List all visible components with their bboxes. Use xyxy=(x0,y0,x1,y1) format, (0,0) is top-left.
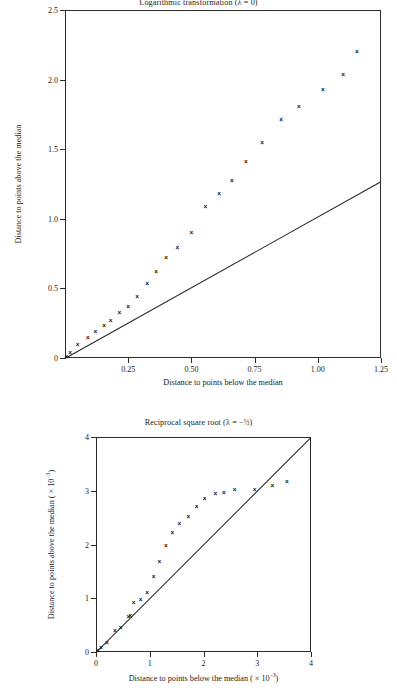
data-point xyxy=(163,543,168,548)
data-point xyxy=(135,294,140,299)
data-point xyxy=(354,49,359,54)
x-axis-title: Distance to points below the median xyxy=(65,378,381,387)
data-point xyxy=(126,304,131,309)
figure-title: Reciprocal square root (λ = −½) xyxy=(0,418,397,427)
x-tick xyxy=(381,358,382,363)
data-point xyxy=(104,640,109,645)
data-point xyxy=(320,87,325,92)
data-point xyxy=(186,514,191,519)
data-point xyxy=(118,625,123,630)
x-tick-label: 0.25 xyxy=(121,365,135,374)
data-point xyxy=(229,178,234,183)
y-axis-title: Distance to points above the median ( × … xyxy=(45,437,56,652)
x-tick-label: 2 xyxy=(202,659,206,668)
data-point xyxy=(138,597,143,602)
data-point xyxy=(93,329,98,334)
data-point xyxy=(164,255,169,260)
data-point xyxy=(151,574,156,579)
y-tick xyxy=(60,10,65,11)
y-tick-label: 2.0 xyxy=(33,75,58,84)
y-tick-label: 2.5 xyxy=(33,6,58,15)
x-tick-label: 4 xyxy=(309,659,313,668)
x-tick-label: 0.75 xyxy=(248,365,262,374)
y-tick xyxy=(91,598,96,599)
x-tick-label: 0.50 xyxy=(184,365,198,374)
data-point xyxy=(252,487,257,492)
x-tick-label: 3 xyxy=(255,659,259,668)
data-point xyxy=(68,350,73,355)
data-point xyxy=(284,479,289,484)
x-tick-label: 1.25 xyxy=(374,365,388,374)
data-point xyxy=(341,72,346,77)
scanned-page: Logarithmic transformation (λ = 0) 0.250… xyxy=(0,0,397,692)
y-axis-title: Distance to points above the median xyxy=(14,10,23,358)
data-point xyxy=(98,645,103,650)
data-point xyxy=(170,530,175,535)
data-point xyxy=(217,191,222,196)
data-point xyxy=(202,496,207,501)
y-tick xyxy=(60,288,65,289)
data-point xyxy=(157,559,162,564)
x-tick-label: 1 xyxy=(148,659,152,668)
x-tick xyxy=(257,652,258,657)
y-tick-label: 1 xyxy=(64,594,89,603)
data-point xyxy=(177,521,182,526)
data-point xyxy=(175,245,180,250)
data-point xyxy=(85,335,90,340)
data-point xyxy=(213,491,218,496)
data-point xyxy=(189,230,194,235)
data-point xyxy=(117,310,122,315)
data-point xyxy=(154,269,159,274)
x-tick-label: 1.00 xyxy=(311,365,325,374)
x-tick-label: 0 xyxy=(94,659,98,668)
data-point xyxy=(145,281,150,286)
data-point xyxy=(128,613,133,618)
x-axis-title: Distance to points below the median ( × … xyxy=(46,672,361,683)
y-tick-label: 0 xyxy=(64,648,89,657)
plot-area xyxy=(65,10,381,358)
y-tick-label: 4 xyxy=(64,433,89,442)
y-tick-label: 0.5 xyxy=(33,284,58,293)
y-tick xyxy=(91,437,96,438)
y-tick-label: 2 xyxy=(64,540,89,549)
y-tick xyxy=(60,80,65,81)
data-point xyxy=(75,342,80,347)
data-point xyxy=(194,504,199,509)
x-tick xyxy=(150,652,151,657)
figure-logarithmic-transformation: Logarithmic transformation (λ = 0) 0.250… xyxy=(0,0,397,400)
y-tick xyxy=(60,149,65,150)
data-point xyxy=(102,323,107,328)
data-point xyxy=(243,159,248,164)
data-point xyxy=(203,204,208,209)
y-tick xyxy=(60,219,65,220)
x-tick xyxy=(311,652,312,657)
data-point xyxy=(270,483,275,488)
y-tick xyxy=(91,545,96,546)
data-point xyxy=(296,104,301,109)
x-tick xyxy=(204,652,205,657)
y-tick xyxy=(91,491,96,492)
figure-title: Logarithmic transformation (λ = 0) xyxy=(0,0,397,7)
x-tick xyxy=(191,358,192,363)
data-point xyxy=(232,487,237,492)
x-tick xyxy=(318,358,319,363)
data-point xyxy=(112,628,117,633)
data-point xyxy=(221,490,226,495)
data-point xyxy=(108,318,113,323)
data-point xyxy=(260,140,265,145)
data-point xyxy=(131,600,136,605)
data-point xyxy=(145,590,150,595)
y-tick-label: 3 xyxy=(64,486,89,495)
x-tick xyxy=(255,358,256,363)
y-tick-label: 1.5 xyxy=(33,145,58,154)
y-tick-label: 0 xyxy=(33,354,58,363)
data-point xyxy=(279,117,284,122)
x-tick xyxy=(128,358,129,363)
figure-reciprocal-square-root: Reciprocal square root (λ = −½) 01234012… xyxy=(0,410,397,692)
y-tick-label: 1.0 xyxy=(33,214,58,223)
